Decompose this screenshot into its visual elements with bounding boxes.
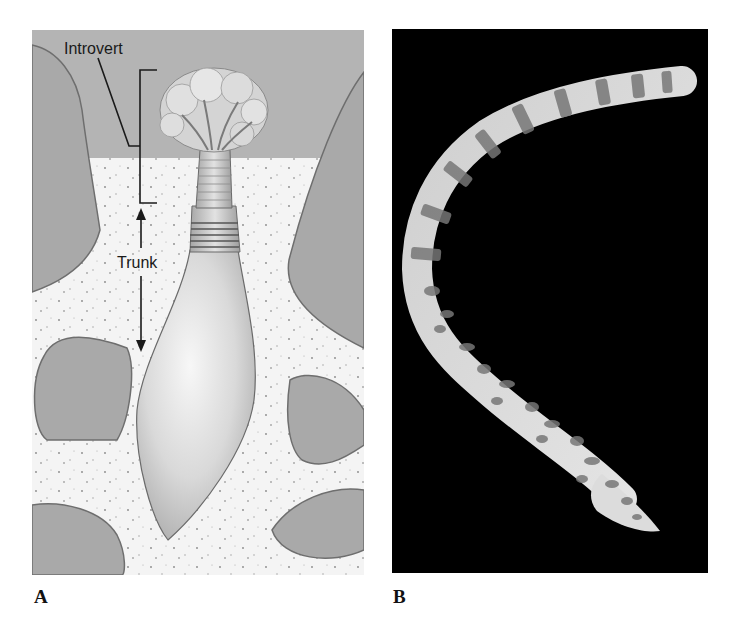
panel-a-illustration: Introvert Trunk [32,30,364,575]
panel-b-photograph [392,29,708,573]
worm-photo [392,29,708,573]
worm-introvert [196,150,232,208]
panel-label-a: A [34,586,48,608]
introvert-label: Introvert [64,40,123,57]
figure: Introvert Trunk [0,0,731,625]
worm-burrow-illustration: Introvert Trunk [32,30,364,575]
trunk-label: Trunk [117,254,158,271]
panel-label-b: B [393,586,406,608]
rock-left-middle [35,337,132,440]
tentacle-crown [160,68,268,152]
